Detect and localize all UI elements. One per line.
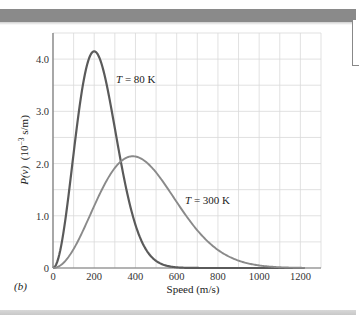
y-axis-label: P(v) (10−3 s/m) bbox=[17, 115, 31, 186]
y-axis-label-units: (10 bbox=[18, 145, 31, 160]
panel-label: (b) bbox=[14, 280, 27, 293]
annotation-300k: T = 300 K bbox=[185, 194, 230, 206]
x-tick-label: 200 bbox=[86, 271, 102, 282]
x-tick-label: 800 bbox=[210, 271, 226, 282]
x-axis-label: Speed (m/s) bbox=[167, 283, 220, 296]
y-tick-label: 0 bbox=[44, 263, 49, 274]
curve-80k bbox=[53, 51, 305, 268]
y-axis-label-symbol: P(v) bbox=[18, 166, 31, 186]
x-tick-label: 400 bbox=[128, 271, 144, 282]
x-tick-label: 1000 bbox=[249, 271, 270, 282]
x-tick-label: 1200 bbox=[290, 271, 311, 282]
chart-grid bbox=[53, 33, 321, 268]
y-tick-labels: 01.02.03.04.0 bbox=[36, 54, 49, 274]
annotation-80k: T = 80 K bbox=[116, 73, 156, 85]
x-tick-label: 0 bbox=[50, 271, 55, 282]
y-axis-label-exponent: −3 bbox=[17, 137, 26, 145]
y-tick-label: 3.0 bbox=[36, 106, 49, 117]
svg-text:P(v) (10−3 s/m): P(v) (10−3 s/m) bbox=[17, 115, 31, 186]
y-tick-label: 1.0 bbox=[36, 211, 49, 222]
y-tick-label: 4.0 bbox=[36, 54, 49, 65]
y-axis-label-units-end: s/m) bbox=[18, 115, 31, 138]
chart-axes bbox=[53, 33, 321, 268]
curve-300k bbox=[53, 156, 305, 268]
y-tick-label: 2.0 bbox=[36, 159, 49, 170]
x-tick-label: 600 bbox=[169, 271, 185, 282]
x-tick-labels: 020040060080010001200 bbox=[50, 271, 311, 282]
chart-curves bbox=[53, 51, 305, 268]
